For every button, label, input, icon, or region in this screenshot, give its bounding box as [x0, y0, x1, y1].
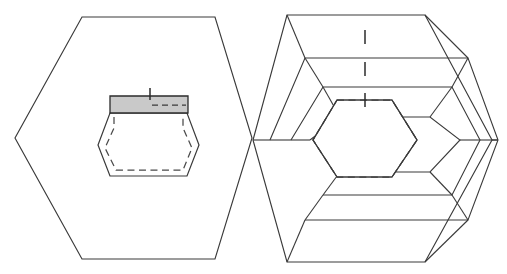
hexagon-diagram-svg [0, 0, 507, 274]
figure-root [0, 0, 507, 274]
